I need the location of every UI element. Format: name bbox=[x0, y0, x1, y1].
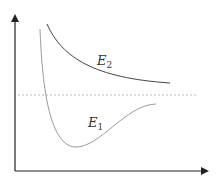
potential-energy-diagram: E2 E1 bbox=[0, 0, 216, 181]
label-e2: E2 bbox=[96, 53, 112, 70]
label-e1: E1 bbox=[87, 115, 103, 132]
curve-e2 bbox=[47, 24, 170, 83]
